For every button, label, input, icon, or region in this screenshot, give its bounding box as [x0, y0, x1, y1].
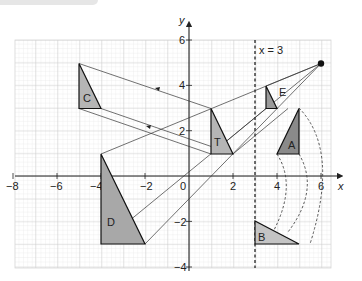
y-tick-label: 6 [179, 34, 185, 46]
mirror-line-label: x = 3 [259, 44, 283, 56]
centre-of-enlargement-point [318, 60, 324, 66]
y-axis-label: y [178, 14, 186, 26]
x-tick-label: 6 [318, 180, 324, 192]
origin-label: 0 [180, 180, 186, 192]
x-tick-label: −6 [50, 180, 63, 192]
shape-label-D: D [107, 216, 115, 228]
y-tick-label: 2 [179, 125, 185, 137]
shape-label-A: A [288, 139, 296, 151]
x-tick-label: −2 [140, 180, 153, 192]
y-tick-label: −2 [174, 216, 187, 228]
y-tick-label: −4 [174, 261, 187, 273]
shape-label-B: B [258, 231, 265, 243]
shape-label-T: T [214, 136, 221, 148]
transformation-diagram: −8 −6 −4 −2 0 2 4 6 x 6 4 2 −2 −4 y x = … [0, 0, 362, 281]
x-axis-label: x [337, 180, 344, 192]
x-tick-label: −8 [6, 180, 19, 192]
x-tick-label: 2 [230, 180, 236, 192]
x-tick-label: 4 [274, 180, 280, 192]
shape-label-E: E [279, 86, 286, 98]
y-tick-label: 4 [179, 79, 185, 91]
shape-label-C: C [83, 92, 91, 104]
